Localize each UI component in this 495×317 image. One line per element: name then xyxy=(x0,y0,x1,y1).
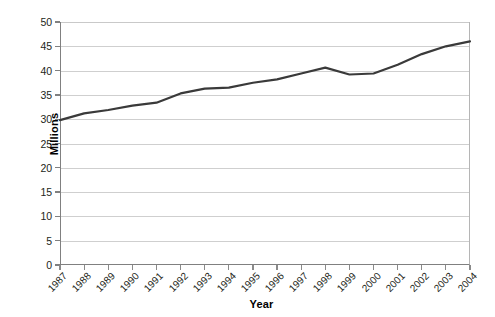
x-tick-label-1990: 1990 xyxy=(115,271,142,298)
x-tick-mark-2000 xyxy=(373,265,374,270)
x-tick-mark-1994 xyxy=(228,265,229,270)
y-tick-mark-5 xyxy=(55,240,60,241)
gridline-10 xyxy=(61,216,469,217)
x-tick-label-2000: 2000 xyxy=(356,271,383,298)
x-tick-mark-1992 xyxy=(180,265,181,270)
x-tick-label-1989: 1989 xyxy=(90,271,117,298)
gridline-40 xyxy=(61,71,469,72)
gridline-30 xyxy=(61,119,469,120)
y-tick-label-45: 45 xyxy=(26,41,52,52)
x-tick-label-1988: 1988 xyxy=(66,271,93,298)
x-tick-label-1991: 1991 xyxy=(139,271,166,298)
x-tick-label-1996: 1996 xyxy=(259,271,286,298)
x-tick-mark-2001 xyxy=(397,265,398,270)
x-tick-mark-1995 xyxy=(252,265,253,270)
x-tick-label-1995: 1995 xyxy=(235,271,262,298)
x-tick-label-2001: 2001 xyxy=(380,271,407,298)
gridline-5 xyxy=(61,241,469,242)
x-tick-label-2004: 2004 xyxy=(452,271,479,298)
gridline-50 xyxy=(61,22,469,23)
x-tick-label-1999: 1999 xyxy=(332,271,359,298)
y-tick-mark-10 xyxy=(55,216,60,217)
y-axis-title: Millions xyxy=(48,74,60,194)
x-tick-mark-2003 xyxy=(445,265,446,270)
x-tick-label-1993: 1993 xyxy=(187,271,214,298)
x-tick-label-2002: 2002 xyxy=(404,271,431,298)
gridline-45 xyxy=(61,46,469,47)
y-tick-label-5: 5 xyxy=(26,236,52,247)
x-tick-label-1994: 1994 xyxy=(211,271,238,298)
gridline-35 xyxy=(61,95,469,96)
x-tick-label-1998: 1998 xyxy=(307,271,334,298)
plot-area xyxy=(60,22,470,265)
x-axis-title-text: Year xyxy=(221,298,273,310)
line-chart: 05101520253035404550 1987198819891990199… xyxy=(0,0,495,317)
x-tick-label-1992: 1992 xyxy=(163,271,190,298)
x-axis-title: Year xyxy=(0,298,495,310)
x-tick-label-2003: 2003 xyxy=(428,271,455,298)
y-tick-mark-50 xyxy=(55,21,60,22)
y-tick-label-50: 50 xyxy=(26,17,52,28)
x-tick-label-1987: 1987 xyxy=(42,271,69,298)
gridline-25 xyxy=(61,144,469,145)
gridline-20 xyxy=(61,168,469,169)
y-tick-label-0: 0 xyxy=(26,260,52,271)
x-tick-mark-1993 xyxy=(204,265,205,270)
y-tick-mark-45 xyxy=(55,46,60,47)
y-tick-mark-40 xyxy=(55,70,60,71)
x-tick-label-1997: 1997 xyxy=(283,271,310,298)
y-tick-label-10: 10 xyxy=(26,211,52,222)
x-tick-mark-2002 xyxy=(421,265,422,270)
gridline-15 xyxy=(61,192,469,193)
